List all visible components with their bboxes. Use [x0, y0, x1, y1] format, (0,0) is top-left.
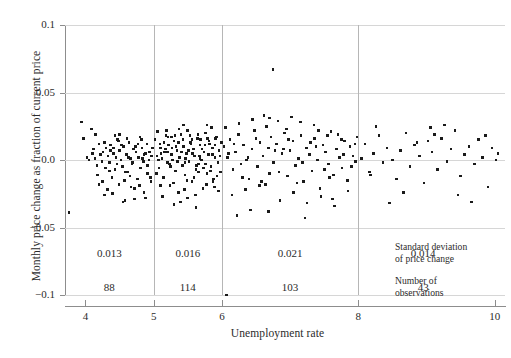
data-point — [346, 179, 349, 182]
x-tick — [154, 300, 155, 307]
x-tick-label: 8 — [338, 310, 378, 322]
data-point — [177, 141, 180, 144]
data-point — [169, 184, 172, 187]
data-point — [206, 172, 209, 175]
data-point — [454, 129, 457, 132]
data-point — [141, 147, 144, 150]
data-point — [296, 182, 299, 185]
data-point — [103, 194, 106, 197]
data-point — [219, 155, 222, 158]
data-point — [274, 149, 277, 152]
gridline — [65, 93, 505, 94]
data-point — [127, 156, 130, 159]
data-point — [154, 138, 157, 141]
data-point — [268, 117, 271, 120]
data-point — [395, 178, 398, 181]
data-point — [354, 160, 357, 163]
data-point — [167, 144, 170, 147]
data-point — [138, 184, 141, 187]
data-point — [440, 137, 443, 140]
data-point — [191, 138, 194, 141]
data-point — [176, 149, 179, 152]
data-point — [349, 145, 352, 148]
data-point — [290, 116, 293, 119]
data-point — [258, 184, 261, 187]
data-point — [156, 155, 159, 158]
y-tick-label: −0.05 — [0, 222, 55, 233]
data-point — [463, 153, 466, 156]
data-point — [477, 138, 480, 141]
x-tick-label: 6 — [202, 310, 242, 322]
data-point — [306, 202, 309, 205]
data-point — [128, 141, 131, 144]
data-point — [316, 159, 319, 162]
data-point — [101, 160, 104, 163]
data-point — [96, 174, 99, 177]
n-legend-line1: Number of — [395, 275, 444, 287]
data-point — [155, 172, 158, 175]
data-point — [183, 188, 186, 191]
data-point — [497, 152, 500, 155]
data-point — [174, 134, 177, 137]
x-tick-label: 4 — [65, 310, 105, 322]
group-sd-value: 0.021 — [255, 247, 325, 259]
data-point — [224, 126, 227, 129]
data-point — [117, 140, 120, 143]
data-point — [118, 183, 121, 186]
data-point — [90, 128, 93, 131]
data-point — [259, 141, 262, 144]
data-point — [171, 147, 174, 150]
data-point — [142, 160, 145, 163]
data-point — [342, 153, 345, 156]
x-tick — [358, 300, 359, 307]
data-point — [88, 159, 91, 162]
data-point — [360, 157, 363, 160]
data-point — [166, 151, 169, 154]
data-point — [340, 138, 343, 141]
data-point — [218, 149, 221, 152]
data-point — [105, 147, 108, 150]
data-point — [156, 130, 159, 133]
data-point — [323, 168, 326, 171]
data-point — [148, 151, 151, 154]
data-point — [137, 143, 140, 146]
data-point — [382, 161, 385, 164]
data-point — [126, 137, 129, 140]
data-point — [304, 217, 307, 220]
data-point — [124, 171, 127, 174]
data-point — [177, 191, 180, 194]
data-point — [174, 170, 177, 173]
data-point — [285, 128, 288, 131]
data-point — [255, 137, 258, 140]
data-point — [163, 141, 166, 144]
data-point — [429, 126, 432, 129]
data-point — [118, 149, 121, 152]
y-tick-label: 0.1 — [0, 19, 55, 30]
data-point — [436, 168, 439, 171]
data-point — [470, 201, 473, 204]
data-point — [197, 171, 200, 174]
data-point — [256, 165, 259, 168]
data-point — [204, 132, 207, 135]
data-point — [114, 134, 117, 137]
data-point — [260, 180, 263, 183]
data-point — [68, 211, 71, 214]
data-point — [146, 172, 149, 175]
data-point — [111, 176, 114, 179]
data-point — [233, 143, 236, 146]
data-point — [220, 141, 223, 144]
data-point — [491, 147, 494, 150]
data-point — [402, 191, 405, 194]
data-point — [82, 137, 85, 140]
data-point — [99, 153, 102, 156]
data-point — [141, 157, 144, 160]
data-point — [431, 151, 434, 154]
data-point — [495, 159, 498, 162]
data-point — [94, 133, 97, 136]
n-legend-line2: observations — [395, 287, 444, 299]
data-point — [335, 148, 338, 151]
x-tick — [222, 300, 223, 307]
group-n-value: 103 — [255, 281, 325, 293]
data-point — [111, 192, 114, 195]
data-point — [343, 140, 346, 143]
